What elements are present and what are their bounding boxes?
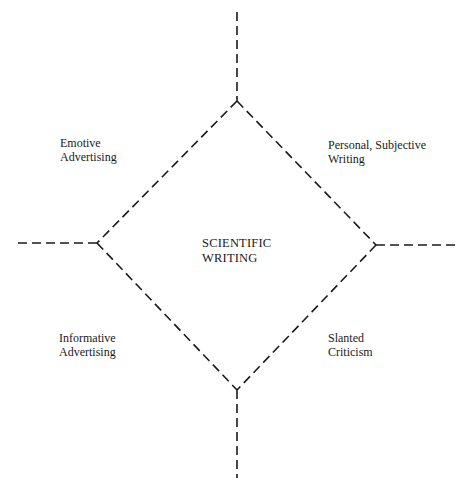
center-label-line2: WRITING xyxy=(202,251,271,266)
quadrant-label-line2: Advertising xyxy=(60,150,117,164)
quadrant-label-emotive-advertising: Emotive Advertising xyxy=(60,136,117,164)
center-label-line1: SCIENTIFIC xyxy=(202,236,271,251)
diamond-edge-bottom-right xyxy=(237,245,376,390)
center-label: SCIENTIFIC WRITING xyxy=(202,236,271,266)
diamond-edge-top-left xyxy=(97,101,237,243)
quadrant-label-personal-subjective-writing: Personal, Subjective Writing xyxy=(328,138,426,166)
diamond-edge-top-right xyxy=(237,101,376,245)
quadrant-label-line2: Advertising xyxy=(59,345,116,359)
quadrant-label-line2: Writing xyxy=(328,152,426,166)
quadrant-label-line1: Personal, Subjective xyxy=(328,138,426,152)
quadrant-label-informative-advertising: Informative Advertising xyxy=(59,331,116,359)
quadrant-label-line1: Slanted xyxy=(328,331,373,345)
quadrant-label-line2: Criticism xyxy=(328,345,373,359)
quadrant-label-line1: Informative xyxy=(59,331,116,345)
quadrant-label-slanted-criticism: Slanted Criticism xyxy=(328,331,373,359)
quadrant-label-line1: Emotive xyxy=(60,136,117,150)
